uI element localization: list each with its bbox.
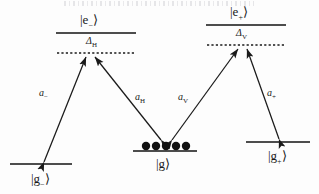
atom-dot <box>162 142 170 150</box>
label-amplitude-a-minus: a− <box>39 88 48 101</box>
label-amplitude-a-v: aV <box>178 92 188 105</box>
label-amplitude-a-plus: a+ <box>267 88 276 101</box>
label-ground-left: |g−⟩ <box>31 172 50 189</box>
label-excited-left: |e−⟩ <box>80 13 98 30</box>
energy-level-diagram: |e−⟩ |e+⟩ ΔH ΔV a− aH aV a+ |g−⟩ |g⟩ |g+… <box>0 0 319 194</box>
label-amplitude-a-h: aH <box>135 92 145 105</box>
atom-dot <box>182 142 190 150</box>
transition-gminus-to-eleft <box>44 57 86 162</box>
label-ground-center: |g⟩ <box>156 157 170 174</box>
label-detuning-h: ΔH <box>86 36 97 49</box>
atom-dot <box>152 142 160 150</box>
label-ground-right: |g+⟩ <box>268 149 287 166</box>
label-excited-right: |e+⟩ <box>230 5 248 22</box>
atom-dot <box>172 142 180 150</box>
label-detuning-v: ΔV <box>236 28 247 41</box>
atom-ensemble <box>142 142 190 150</box>
transition-g-to-eleft <box>95 57 161 140</box>
atom-dot <box>142 142 150 150</box>
